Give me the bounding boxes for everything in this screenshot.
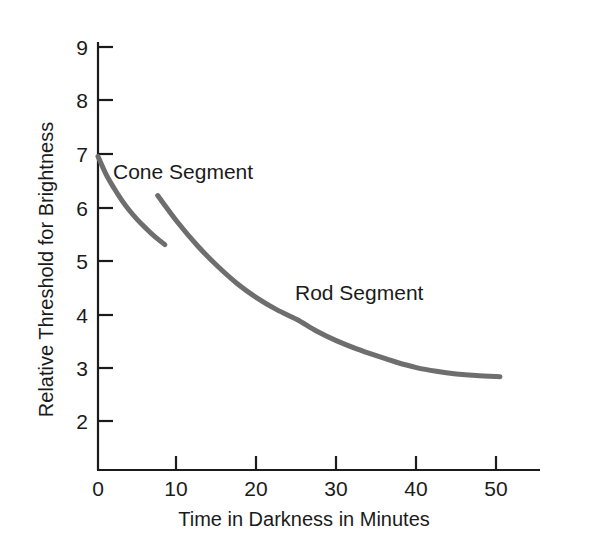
x-axis-ticks xyxy=(176,456,496,470)
x-tick-label-50: 50 xyxy=(484,478,507,499)
x-tick-label-30: 30 xyxy=(324,478,347,499)
x-axis-title: Time in Darkness in Minutes xyxy=(0,508,608,531)
chart-figure: 9 8 7 6 5 4 3 2 0 10 20 30 40 50 Relativ… xyxy=(0,0,608,554)
y-tick-label-2: 2 xyxy=(58,411,88,432)
y-tick-label-8: 8 xyxy=(58,90,88,111)
x-tick-label-40: 40 xyxy=(404,478,427,499)
cone-segment-label: Cone Segment xyxy=(113,160,253,184)
plot-area xyxy=(0,0,608,554)
y-axis-ticks xyxy=(98,47,113,421)
x-tick-label-10: 10 xyxy=(164,478,187,499)
y-tick-label-7: 7 xyxy=(58,144,88,165)
y-tick-label-9: 9 xyxy=(58,37,88,58)
y-tick-label-3: 3 xyxy=(58,358,88,379)
y-tick-label-5: 5 xyxy=(58,251,88,272)
x-tick-label-0: 0 xyxy=(92,478,104,499)
y-tick-label-6: 6 xyxy=(58,198,88,219)
y-axis-title: Relative Threshold for Brightness xyxy=(35,70,58,470)
series-layer xyxy=(98,157,500,377)
rod-segment-label: Rod Segment xyxy=(295,281,423,305)
x-tick-label-20: 20 xyxy=(244,478,267,499)
y-tick-label-4: 4 xyxy=(58,305,88,326)
